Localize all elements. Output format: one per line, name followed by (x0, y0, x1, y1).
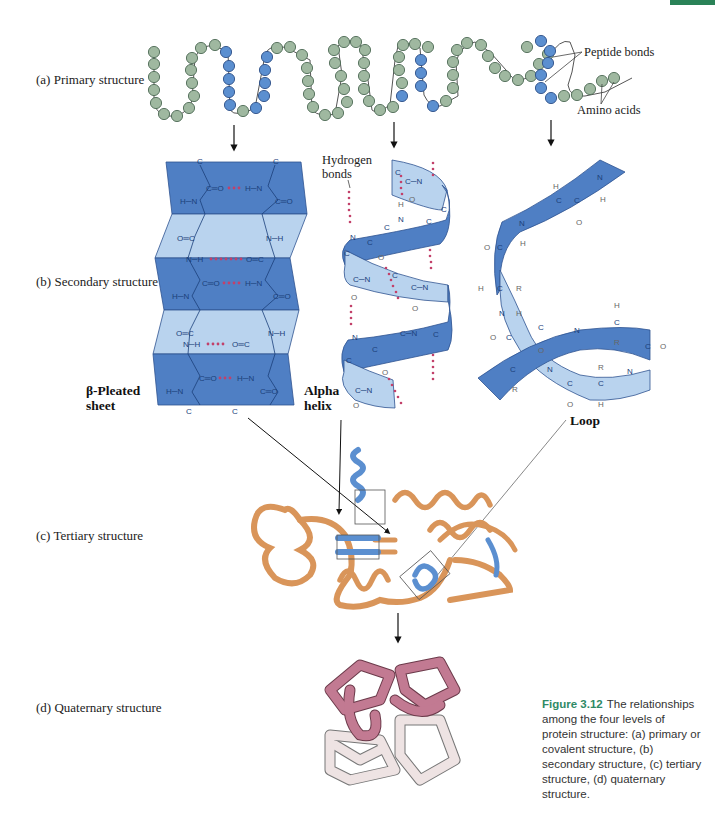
svg-text:H─N: H─N (180, 197, 197, 206)
svg-text:N─H: N─H (183, 340, 200, 349)
svg-text:O: O (412, 304, 418, 313)
svg-text:N: N (499, 309, 505, 318)
svg-text:C═O: C═O (260, 387, 278, 396)
svg-text:H─N: H─N (245, 184, 262, 193)
svg-text:C: C (538, 323, 544, 332)
svg-text:C: C (344, 249, 350, 258)
svg-text:C: C (273, 157, 279, 166)
svg-text:O═C: O═C (176, 329, 194, 338)
svg-text:O═C: O═C (177, 234, 195, 243)
svg-text:H: H (516, 309, 522, 318)
svg-text:R: R (516, 284, 522, 293)
svg-text:O═C: O═C (246, 255, 264, 264)
svg-text:C: C (372, 345, 378, 354)
svg-text:R: R (614, 338, 620, 347)
svg-text:C─N: C─N (411, 283, 428, 292)
svg-text:C: C (556, 196, 562, 205)
svg-text:C═O: C═O (202, 279, 220, 288)
svg-text:C: C (441, 205, 447, 214)
svg-text:R: R (512, 385, 518, 394)
svg-text:H: H (398, 200, 404, 209)
svg-text:C: C (384, 223, 390, 232)
svg-text:H: H (478, 284, 484, 293)
svg-text:N: N (350, 233, 356, 242)
svg-text:H─N: H─N (237, 374, 254, 383)
svg-text:C─N: C─N (355, 386, 372, 395)
svg-text:H─N: H─N (245, 279, 262, 288)
svg-text:C: C (574, 196, 580, 205)
svg-text:N: N (352, 333, 358, 342)
svg-text:C═O: C═O (206, 184, 224, 193)
svg-text:C: C (510, 365, 516, 374)
svg-text:O: O (409, 195, 415, 204)
svg-text:C: C (186, 407, 192, 416)
svg-text:C: C (598, 379, 604, 388)
svg-text:H─N: H─N (166, 387, 183, 396)
svg-text:C═O: C═O (275, 197, 293, 206)
svg-text:C═O: C═O (199, 374, 217, 383)
svg-text:N: N (547, 365, 553, 374)
svg-text:R: R (598, 363, 604, 372)
svg-text:C─N: C─N (405, 177, 422, 186)
svg-text:O: O (576, 218, 582, 227)
svg-text:C: C (367, 238, 373, 247)
svg-text:C: C (197, 157, 203, 166)
svg-text:H: H (614, 301, 620, 310)
svg-text:H: H (600, 195, 606, 204)
svg-text:C: C (497, 243, 503, 252)
svg-text:O: O (567, 400, 573, 409)
svg-text:C: C (433, 330, 439, 339)
primary-structure-chain (148, 35, 632, 121)
svg-text:O: O (490, 333, 496, 342)
svg-text:O: O (353, 401, 359, 410)
svg-text:O: O (351, 293, 357, 302)
quaternary-structure (330, 662, 455, 780)
svg-text:C: C (614, 318, 620, 327)
svg-text:O═C: O═C (232, 340, 250, 349)
svg-text:N─H: N─H (266, 234, 283, 243)
svg-text:C: C (426, 217, 432, 226)
svg-text:H: H (553, 182, 559, 191)
svg-text:N: N (627, 367, 633, 376)
svg-text:C: C (567, 379, 573, 388)
svg-text:C: C (346, 356, 352, 365)
svg-text:O: O (378, 253, 384, 262)
svg-text:N: N (398, 215, 404, 224)
svg-text:H─N: H─N (172, 292, 189, 301)
svg-text:H: H (598, 400, 604, 409)
beta-pleated-sheet: CC C═OH─N H─NC═O O═CN─H N─HO═C C═OH─N H─… (153, 157, 307, 416)
svg-text:C─N: C─N (400, 329, 417, 338)
svg-text:C: C (645, 342, 651, 351)
loop-ribbon: NH CC HO NH OC HCR NH OC CNC ORH CO CR N… (478, 160, 666, 409)
svg-text:N: N (574, 326, 580, 335)
svg-text:O: O (484, 243, 490, 252)
svg-text:N: N (597, 173, 603, 182)
svg-text:H: H (520, 239, 526, 248)
svg-text:N─H: N─H (268, 329, 285, 338)
svg-text:C: C (506, 333, 512, 342)
protein-structure-illustration: CC C═OH─N H─NC═O O═CN─H N─HO═C C═OH─N H─… (0, 0, 715, 831)
svg-text:N: N (519, 219, 525, 228)
svg-text:O: O (538, 346, 544, 355)
svg-text:O: O (660, 342, 666, 351)
alpha-helix: CC─N OH NCC NCC CO C─NCC─N OO NCC─NC CO … (342, 160, 452, 410)
svg-text:C: C (392, 271, 398, 280)
svg-text:C: C (497, 284, 503, 293)
svg-text:C─N: C─N (353, 275, 370, 284)
svg-text:N─H: N─H (186, 255, 203, 264)
svg-text:O: O (382, 368, 388, 377)
svg-text:C: C (232, 407, 238, 416)
svg-text:C═O: C═O (273, 292, 291, 301)
